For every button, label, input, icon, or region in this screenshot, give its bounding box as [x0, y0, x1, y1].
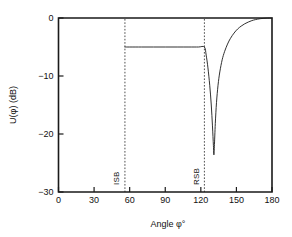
- y-tick-label-−10: −10: [38, 71, 53, 81]
- x-axis-title: Angle φ°: [151, 219, 186, 229]
- y-tick-label-−20: −20: [38, 129, 53, 139]
- y-tick-label-0: 0: [48, 13, 53, 23]
- x-tick-label-60: 60: [125, 195, 135, 205]
- x-tick-label-30: 30: [89, 195, 99, 205]
- angle-response-chart: 0306090120150180 0−10−20−30 ISBRSB Angle…: [0, 0, 292, 237]
- marker-label-rsb: RSB: [192, 168, 201, 185]
- x-tick-label-90: 90: [160, 195, 170, 205]
- y-axis-title: U(φ) (dB): [8, 86, 18, 124]
- x-tick-label-120: 120: [193, 195, 208, 205]
- chart-figure: 0306090120150180 0−10−20−30 ISBRSB Angle…: [0, 0, 292, 237]
- x-tick-label-0: 0: [56, 195, 61, 205]
- marker-label-isb: ISB: [112, 172, 121, 186]
- x-tick-label-180: 180: [264, 195, 279, 205]
- y-tick-label-−30: −30: [38, 187, 53, 197]
- x-tick-label-150: 150: [229, 195, 244, 205]
- chart-background: [0, 0, 292, 237]
